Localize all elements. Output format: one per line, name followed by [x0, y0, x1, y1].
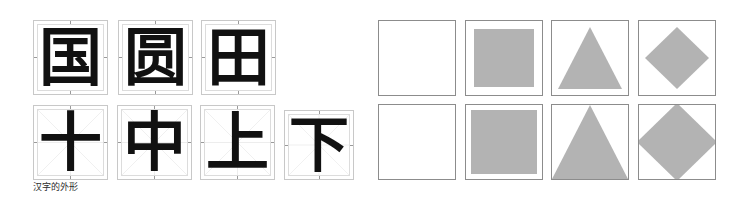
character-cell-inner-frame: 国 — [37, 24, 104, 91]
hanzi-glyph-下: 下 — [289, 115, 349, 175]
character-cell-inner-frame: 田 — [205, 24, 272, 91]
shape-cell-empty-square — [378, 20, 456, 96]
character-cell-inner-frame: 圆 — [122, 24, 189, 91]
diamond-icon — [639, 21, 715, 95]
character-cell-田: 田 — [201, 20, 276, 95]
shape-cell-diamond — [638, 20, 716, 96]
character-cell-国: 国 — [33, 20, 108, 95]
hanzi-glyph-国: 国 — [38, 25, 103, 90]
shape-cell-triangle — [551, 104, 629, 180]
shape-cell-triangle — [551, 20, 629, 96]
triangle-icon — [552, 105, 628, 179]
figure-caption: 汉字的外形 — [33, 180, 78, 193]
hanzi-glyph-圆: 圆 — [123, 25, 188, 90]
shape-cell-filled-square — [465, 104, 543, 180]
character-cell-圆: 圆 — [118, 20, 193, 95]
shape-cell-empty-square — [378, 104, 456, 180]
hanzi-glyph-上: 上 — [205, 110, 270, 175]
character-cell-十: 十 — [33, 105, 108, 180]
character-cell-下: 下 — [284, 110, 354, 180]
hanzi-glyph-中: 中 — [122, 110, 187, 175]
shape-panel — [366, 0, 733, 198]
shape-cell-filled-square — [465, 20, 543, 96]
filled-square-icon — [466, 105, 542, 179]
character-panel: 国圆田十中上下 — [0, 0, 366, 198]
hanzi-glyph-田: 田 — [206, 25, 271, 90]
hanzi-shape-figure: 国圆田十中上下 汉字的外形 — [0, 0, 733, 198]
character-cell-inner-frame: 十 — [37, 109, 104, 176]
filled-square-icon — [466, 21, 542, 95]
character-cell-中: 中 — [117, 105, 192, 180]
character-cell-上: 上 — [200, 105, 275, 180]
character-cell-inner-frame: 中 — [121, 109, 188, 176]
hanzi-glyph-十: 十 — [38, 110, 103, 175]
character-cell-inner-frame: 上 — [204, 109, 271, 176]
triangle-icon — [552, 21, 628, 95]
character-cell-inner-frame: 下 — [288, 114, 350, 176]
diamond-icon — [639, 105, 715, 179]
shape-cell-diamond — [638, 104, 716, 180]
